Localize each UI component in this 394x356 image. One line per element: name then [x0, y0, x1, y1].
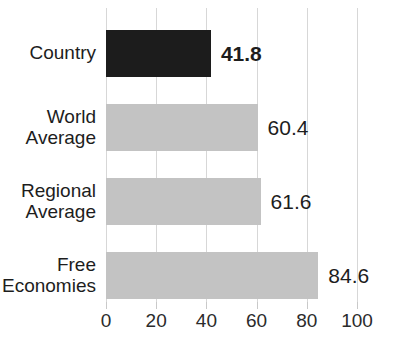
x-tick-label-0: 0	[101, 311, 112, 330]
x-axis: 020406080100	[106, 302, 357, 310]
category-label-line: Average	[0, 127, 96, 148]
x-tick-80	[307, 302, 308, 309]
bar-world-average[interactable]	[106, 104, 258, 151]
category-label-free-economies: FreeEconomies	[0, 254, 96, 297]
bar-value-label: 84.6	[328, 265, 369, 286]
category-label-regional-average: RegionalAverage	[0, 180, 96, 223]
x-tick-label-60: 60	[246, 311, 267, 330]
category-label-line: World	[0, 106, 96, 127]
x-tick-40	[206, 302, 207, 309]
bar-row[interactable]: 60.4	[106, 104, 357, 151]
category-label-line: Economies	[0, 275, 96, 296]
x-tick-100	[357, 302, 358, 309]
bar-row[interactable]: 84.6	[106, 252, 357, 299]
category-label-line: Average	[0, 201, 96, 222]
x-tick-label-80: 80	[296, 311, 317, 330]
bar-country[interactable]	[106, 30, 211, 77]
gridline-100	[357, 8, 358, 302]
bar-value-label: 60.4	[268, 117, 309, 138]
bar-regional-average[interactable]	[106, 178, 261, 225]
bar-row[interactable]: 41.8	[106, 30, 357, 77]
category-label-line: Regional	[0, 180, 96, 201]
bar-chart: 41.860.461.684.6 CountryWorldAverageRegi…	[0, 0, 394, 356]
category-label-line: Country	[0, 42, 96, 63]
x-tick-label-100: 100	[341, 311, 373, 330]
x-tick-label-20: 20	[146, 311, 167, 330]
category-label-line: Free	[0, 254, 96, 275]
category-label-world-average: WorldAverage	[0, 106, 96, 149]
category-label-country: Country	[0, 42, 96, 63]
x-tick-0	[106, 302, 107, 309]
bar-row[interactable]: 61.6	[106, 178, 357, 225]
x-tick-label-40: 40	[196, 311, 217, 330]
x-tick-20	[156, 302, 157, 309]
bar-value-label: 41.8	[221, 43, 262, 64]
bar-value-label: 61.6	[271, 191, 312, 212]
plot-area: 41.860.461.684.6	[106, 8, 357, 302]
bar-free-economies[interactable]	[106, 252, 318, 299]
x-tick-60	[257, 302, 258, 309]
